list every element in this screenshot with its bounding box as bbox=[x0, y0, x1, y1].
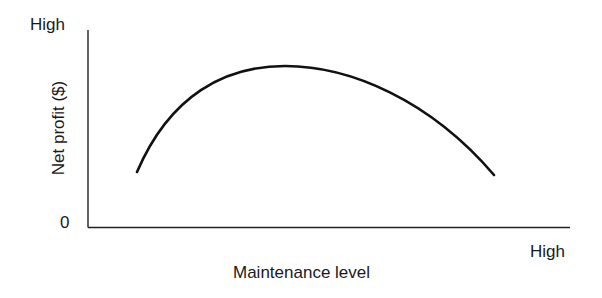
y-axis-title: Net profit ($) bbox=[50, 81, 67, 175]
x-axis-title: Maintenance level bbox=[233, 264, 370, 281]
profit-curve bbox=[137, 66, 494, 175]
y-axis-high-label: High bbox=[30, 16, 65, 33]
chart-canvas bbox=[0, 0, 602, 298]
x-axis-high-label: High bbox=[530, 243, 565, 260]
y-axis-zero-label: 0 bbox=[60, 214, 69, 231]
